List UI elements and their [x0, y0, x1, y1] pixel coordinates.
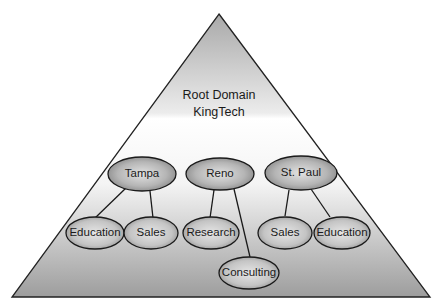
node-reno-research: Research [183, 217, 239, 249]
node-tampa-education: Education [66, 217, 124, 249]
pyramid-diagram: Root Domain KingTech Tampa Education Sal… [0, 0, 441, 307]
root-domain-label: Root Domain [183, 88, 256, 102]
node-stpaul-sales-label: Sales [271, 226, 300, 238]
node-tampa-label: Tampa [125, 167, 160, 179]
node-tampa: Tampa [108, 157, 176, 191]
node-stpaul-education: Education [314, 217, 370, 249]
pyramid-shape [12, 14, 430, 297]
node-tampa-sales-label: Sales [137, 226, 166, 238]
node-reno-research-label: Research [186, 226, 235, 238]
node-reno-label: Reno [206, 167, 234, 179]
node-stpaul: St. Paul [265, 156, 337, 190]
node-tampa-education-label: Education [69, 226, 120, 238]
root-domain-name: KingTech [193, 105, 244, 119]
node-reno: Reno [186, 158, 254, 190]
node-stpaul-label: St. Paul [281, 166, 321, 178]
node-reno-consulting-label: Consulting [222, 266, 276, 278]
node-stpaul-education-label: Education [316, 226, 367, 238]
node-stpaul-sales: Sales [258, 217, 312, 249]
node-tampa-sales: Sales [124, 217, 178, 249]
node-reno-consulting: Consulting [219, 257, 279, 289]
